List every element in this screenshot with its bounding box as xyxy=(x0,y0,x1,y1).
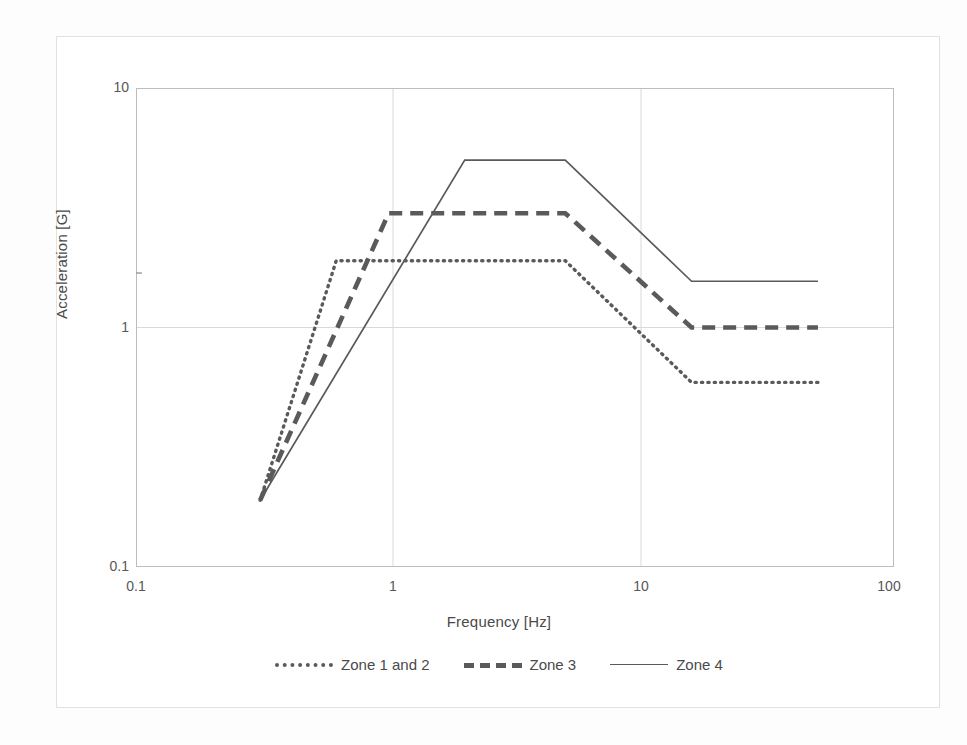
legend-label-zone-3: Zone 3 xyxy=(530,656,577,673)
chart-svg xyxy=(136,88,894,567)
legend-swatch-dotted-icon xyxy=(275,659,333,671)
legend-swatch-solid-icon xyxy=(610,659,668,671)
legend-swatch-dashed-icon xyxy=(464,659,522,671)
y-axis-title: Acceleration [G] xyxy=(53,209,70,319)
series-line-zone-3 xyxy=(260,213,818,500)
y-tick-label-0.1: 0.1 xyxy=(69,558,129,574)
x-tick-label-1: 1 xyxy=(363,578,423,594)
legend-item-zone-4[interactable]: Zone 4 xyxy=(610,656,723,673)
x-axis-title: Frequency [Hz] xyxy=(57,613,941,630)
figure-frame: Acceleration [G] 10 1 0.1 0.1 1 10 100 xyxy=(56,36,940,708)
legend-item-zone-1-and-2[interactable]: Zone 1 and 2 xyxy=(275,656,429,673)
legend-item-zone-3[interactable]: Zone 3 xyxy=(464,656,577,673)
legend-label-zone-1-and-2: Zone 1 and 2 xyxy=(341,656,429,673)
legend-label-zone-4: Zone 4 xyxy=(676,656,723,673)
chart-legend: Zone 1 and 2 Zone 3 Zone 4 xyxy=(57,656,941,673)
plot-area xyxy=(136,88,894,567)
data-series-layer xyxy=(260,160,818,500)
y-tick-label-1: 1 xyxy=(69,319,129,335)
x-tick-label-10: 10 xyxy=(611,578,671,594)
y-tick-label-10: 10 xyxy=(69,79,129,95)
series-line-zone-1-and-2 xyxy=(260,261,818,501)
x-tick-label-100: 100 xyxy=(859,578,919,594)
x-tick-label-0.1: 0.1 xyxy=(106,578,166,594)
chart-page: Acceleration [G] 10 1 0.1 0.1 1 10 100 xyxy=(0,0,967,745)
